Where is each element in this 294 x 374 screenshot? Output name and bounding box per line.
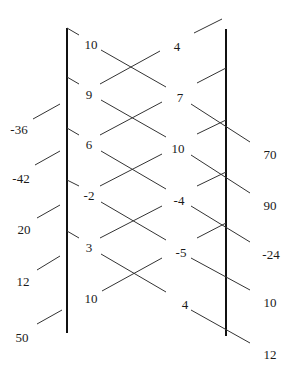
connector-line <box>100 206 162 238</box>
connector-line <box>33 104 60 119</box>
right-outer-label: 12 <box>264 347 277 362</box>
connector-line <box>67 128 79 135</box>
left-inner-labels: 10 9 6 -2 3 10 <box>84 37 98 306</box>
right-inner-label: 10 <box>172 141 185 156</box>
right-outer-label: 10 <box>264 295 277 310</box>
connector-lines <box>33 19 250 343</box>
left-inner-label: 10 <box>85 37 98 52</box>
right-inner-label: 7 <box>177 90 184 105</box>
left-outer-label: 50 <box>16 330 29 345</box>
connector-line <box>197 68 226 83</box>
connector-line <box>100 51 160 84</box>
connector-line <box>197 120 226 134</box>
right-outer-label: -24 <box>262 247 280 262</box>
right-inner-label: 4 <box>182 297 189 312</box>
right-inner-label: 4 <box>174 39 181 54</box>
connector-line <box>67 28 79 35</box>
connector-line <box>102 258 162 291</box>
left-inner-label: 10 <box>85 291 98 306</box>
left-inner-label: 9 <box>86 87 93 102</box>
right-outer-label: 90 <box>264 198 277 213</box>
connector-line <box>37 256 60 270</box>
connector-line <box>191 155 250 193</box>
number-crossing-diagram: 10 9 6 -2 3 10 4 7 10 -4 -5 4 -36 -42 20… <box>0 0 294 374</box>
left-outer-label: -36 <box>10 122 28 137</box>
left-inner-label: 6 <box>86 137 93 152</box>
right-outer-labels: 70 90 -24 10 12 <box>262 147 280 362</box>
left-outer-label: 20 <box>18 222 31 237</box>
right-inner-labels: 4 7 10 -4 -5 4 <box>172 39 189 312</box>
connector-line <box>35 151 60 165</box>
connector-line <box>67 180 79 186</box>
connector-line <box>67 77 79 84</box>
connector-line <box>101 50 166 87</box>
left-outer-label: -42 <box>12 171 29 186</box>
right-inner-label: -4 <box>174 193 185 208</box>
left-outer-label: 12 <box>17 274 30 289</box>
connector-line <box>67 231 79 238</box>
left-inner-label: -2 <box>84 188 95 203</box>
right-inner-label: -5 <box>176 245 187 260</box>
connector-line <box>197 172 226 186</box>
connector-line <box>194 19 222 33</box>
connector-line <box>191 310 250 343</box>
connector-line <box>37 205 60 218</box>
left-outer-labels: -36 -42 20 12 50 <box>10 122 30 345</box>
connector-line <box>37 310 62 324</box>
left-inner-label: 3 <box>86 240 93 255</box>
connector-line <box>100 102 162 135</box>
right-outer-label: 70 <box>264 147 277 162</box>
connector-line <box>191 258 250 290</box>
connector-line <box>197 223 226 238</box>
